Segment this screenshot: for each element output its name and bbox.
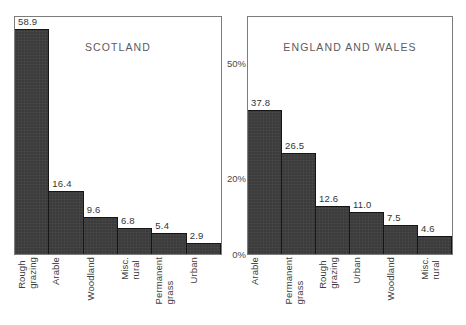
- bar-value-label: 4.6: [421, 223, 435, 234]
- y-axis-tick-label: 50%: [227, 57, 246, 68]
- y-axis-tick-label: 20%: [227, 172, 246, 183]
- bar-value-label: 12.6: [319, 193, 338, 204]
- plot-area-scotland: 58.916.49.66.85.42.9: [15, 17, 221, 254]
- bar: [350, 212, 384, 254]
- chart-panel-scotland: SCOTLAND 58.916.49.66.85.42.9: [14, 16, 222, 255]
- x-axis-label: Permanentgrass: [154, 257, 188, 325]
- x-axis-label: Urban: [352, 257, 386, 325]
- bar: [282, 153, 316, 254]
- bar-value-label: 5.4: [155, 220, 169, 231]
- x-axis-label-text: Arable: [250, 257, 261, 285]
- bar-layer-scotland: 58.916.49.66.85.42.9: [15, 17, 221, 254]
- bar-value-label: 58.9: [18, 16, 37, 27]
- x-axis-label-text: Arable: [51, 257, 62, 285]
- x-axis-label: Roughgrazing: [17, 257, 51, 325]
- bar: [418, 236, 452, 254]
- bar-value-label: 2.9: [190, 230, 204, 241]
- bar: [84, 217, 118, 254]
- bar: [152, 233, 186, 254]
- x-axis-label-text: Woodland: [86, 257, 97, 300]
- bar-value-label: 16.4: [52, 178, 71, 189]
- bar-value-label: 6.8: [121, 215, 135, 226]
- y-axis-tick-label: 0%: [232, 249, 246, 260]
- x-axis-label: Woodland: [86, 257, 120, 325]
- x-axis-label: Urban: [189, 257, 223, 325]
- bar-layer-england-and-wales: 37.826.512.611.07.54.6: [248, 17, 452, 254]
- bar-value-label: 11.0: [353, 199, 372, 210]
- bar: [316, 206, 350, 254]
- x-axis-label-text: Roughgrazing: [17, 257, 38, 289]
- plot-area-england-and-wales: 37.826.512.611.07.54.6: [248, 17, 452, 254]
- x-axis-label-text: Urban: [189, 257, 200, 283]
- x-axis-labels-england-and-wales: ArablePermanentgrassRoughgrazingUrbanWoo…: [247, 257, 453, 325]
- x-axis-label-text: Urban: [352, 257, 363, 283]
- x-axis-label: Woodland: [386, 257, 420, 325]
- x-axis-label: Permanentgrass: [284, 257, 318, 325]
- bar-value-label: 9.6: [87, 204, 101, 215]
- x-axis-label-text: Woodland: [386, 257, 397, 300]
- bar: [118, 228, 152, 254]
- figure-root: SCOTLAND 58.916.49.66.85.42.9 50%20%0% E…: [0, 0, 466, 325]
- x-axis-label-text: Misc.rural: [420, 257, 441, 280]
- bar-value-label: 37.8: [251, 97, 270, 108]
- bar: [384, 225, 418, 254]
- x-axis-label: Arable: [51, 257, 85, 325]
- bar-value-label: 7.5: [387, 212, 401, 223]
- chart-panel-england-and-wales: ENGLAND AND WALES 37.826.512.611.07.54.6: [247, 16, 453, 255]
- x-axis-labels-scotland: RoughgrazingArableWoodlandMisc.ruralPerm…: [14, 257, 222, 325]
- x-axis-label-text: Misc.rural: [120, 257, 141, 280]
- bar-value-label: 26.5: [285, 140, 304, 151]
- bar: [187, 243, 221, 254]
- bar: [15, 29, 49, 254]
- x-axis-label: Misc.rural: [120, 257, 154, 325]
- x-axis-label-text: Roughgrazing: [318, 257, 339, 289]
- x-axis-label-text: Permanentgrass: [284, 257, 305, 304]
- x-axis-label: Misc.rural: [420, 257, 454, 325]
- y-axis: 50%20%0%: [222, 16, 248, 255]
- bar: [49, 191, 83, 254]
- bar: [248, 110, 282, 254]
- x-axis-label: Roughgrazing: [318, 257, 352, 325]
- x-axis-label-text: Permanentgrass: [154, 257, 175, 304]
- x-axis-label: Arable: [250, 257, 284, 325]
